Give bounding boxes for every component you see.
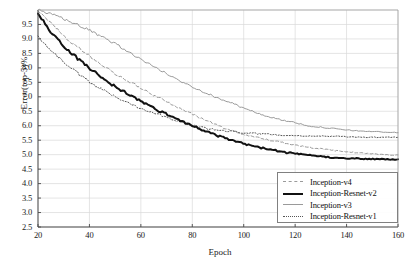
y-tick-label: 3.0: [4, 207, 32, 217]
y-tick-label: 6.0: [4, 120, 32, 130]
legend-label-inception-resnet-v1: Inception-Resnet-v1: [310, 211, 377, 221]
series-line-inception-resnet-v2: [38, 14, 398, 160]
y-tick-label: 9.0: [4, 33, 32, 43]
legend-label-inception-v3: Inception-v3: [310, 200, 352, 210]
chart-legend: Inception-v4 Inception-Resnet-v2 Incepti…: [277, 172, 398, 223]
legend-label-inception-v4: Inception-v4: [310, 177, 352, 187]
legend-item-inception-v4: Inception-v4: [278, 176, 397, 188]
series-line-inception-resnet-v1: [38, 36, 398, 138]
y-tick-label: 4.0: [4, 178, 32, 188]
legend-item-inception-resnet-v1: Inception-Resnet-v1: [278, 211, 397, 223]
legend-swatch-inception-resnet-v2: [282, 189, 304, 198]
y-tick-label: 7.5: [4, 77, 32, 87]
legend-item-inception-v3: Inception-v3: [278, 199, 397, 211]
x-tick-label: 120: [280, 230, 310, 240]
y-tick-label: 8.0: [4, 62, 32, 72]
x-tick-label: 140: [332, 230, 362, 240]
x-tick-label: 20: [23, 230, 53, 240]
y-tick-label: 6.5: [4, 106, 32, 116]
y-tick-label: 4.5: [4, 164, 32, 174]
x-tick-label: 40: [74, 230, 104, 240]
y-tick-label: 5.5: [4, 135, 32, 145]
x-tick-label: 160: [383, 230, 410, 240]
y-tick-label: 5.0: [4, 149, 32, 159]
legend-swatch-inception-resnet-v1: [282, 212, 304, 221]
legend-label-inception-resnet-v2: Inception-Resnet-v2: [310, 188, 377, 198]
y-tick-label: 7.0: [4, 91, 32, 101]
chart-figure: Error(top-5)% Epoch 9.59.08.58.07.57.06.…: [0, 0, 410, 264]
plot-canvas: [0, 0, 410, 264]
x-tick-label: 60: [126, 230, 156, 240]
x-tick-label: 80: [177, 230, 207, 240]
x-tick-label: 100: [229, 230, 259, 240]
y-tick-label: 9.5: [4, 19, 32, 29]
x-axis-label-text: Epoch: [209, 247, 232, 257]
x-axis-label: Epoch: [0, 247, 410, 257]
y-tick-label: 8.5: [4, 48, 32, 58]
y-tick-label: 3.5: [4, 193, 32, 203]
legend-swatch-inception-v3: [282, 200, 304, 209]
legend-swatch-inception-v4: [282, 177, 304, 186]
legend-item-inception-resnet-v2: Inception-Resnet-v2: [278, 188, 397, 200]
